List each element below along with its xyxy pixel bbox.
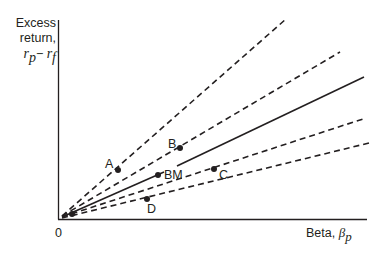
label-bm: BM <box>164 168 183 182</box>
chart-canvas <box>0 0 383 259</box>
label-a: A <box>105 157 113 171</box>
point-b <box>177 145 183 151</box>
y-axis-title: Excess return, rp− rf <box>8 16 56 67</box>
point-c <box>211 166 217 172</box>
point-bm <box>155 172 161 178</box>
y-title-formula: rp− rf <box>8 46 56 67</box>
y-title-line2: return, <box>8 31 56 46</box>
origin-point <box>69 211 75 217</box>
label-b: B <box>168 137 176 151</box>
x-axis-title: Beta, βp <box>306 225 352 245</box>
origin-label: 0 <box>55 226 62 240</box>
line-a <box>62 19 286 216</box>
label-c: C <box>219 168 228 182</box>
y-title-line1: Excess <box>8 16 56 31</box>
line-d <box>62 143 369 218</box>
line-b <box>62 52 340 216</box>
point-a <box>115 167 121 173</box>
label-d: D <box>147 202 156 216</box>
